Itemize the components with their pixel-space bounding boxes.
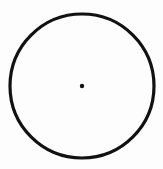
diagram-canvas xyxy=(0,0,163,169)
circle-diagram xyxy=(0,0,163,169)
center-point xyxy=(80,84,84,88)
